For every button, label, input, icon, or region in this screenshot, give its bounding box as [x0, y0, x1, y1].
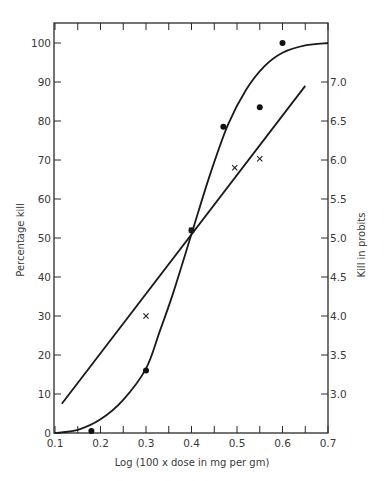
- x-tick-label: 0.6: [274, 437, 291, 449]
- x-tick-label: 0.2: [92, 437, 109, 449]
- y-tick-label: 0: [44, 427, 51, 439]
- linear-fit-line: [62, 86, 305, 404]
- data-point-cross: [232, 165, 237, 170]
- sigmoid-fit-curve: [55, 43, 328, 433]
- y2-axis-ticks: 3.03.54.04.55.05.56.06.57.0: [321, 76, 347, 400]
- y-tick-label: 40: [38, 271, 51, 283]
- x-tick-label: 0.5: [229, 437, 246, 449]
- y2-tick-label: 5.5: [330, 193, 347, 205]
- data-point-cross: [143, 313, 148, 318]
- y2-tick-label: 3.5: [330, 349, 347, 361]
- fit-lines: [55, 43, 328, 433]
- y2-tick-label: 6.0: [330, 154, 347, 166]
- y-axis-title: Percentage kill: [15, 203, 26, 277]
- y2-tick-label: 4.5: [330, 271, 347, 283]
- x-axis-title: Log (100 x dose in mg per gm): [115, 457, 270, 468]
- y-tick-label: 30: [38, 310, 51, 322]
- y2-tick-label: 5.0: [330, 232, 347, 244]
- x-tick-label: 0.4: [183, 437, 200, 449]
- data-point-dot: [143, 368, 149, 374]
- x-tick-label: 0.7: [320, 437, 337, 449]
- y-tick-label: 80: [38, 115, 51, 127]
- y-tick-label: 100: [31, 37, 51, 49]
- data-markers: [88, 40, 285, 434]
- y2-tick-label: 4.0: [330, 310, 347, 322]
- data-point-dot: [280, 40, 286, 46]
- y2-axis-title: Kill in probits: [356, 213, 367, 278]
- data-point-dot: [88, 428, 94, 434]
- y-tick-label: 70: [38, 154, 51, 166]
- y2-tick-label: 6.5: [330, 115, 347, 127]
- y2-tick-label: 7.0: [330, 76, 347, 88]
- data-point-dot: [220, 124, 226, 130]
- y-tick-label: 10: [38, 388, 51, 400]
- data-point-dot: [257, 104, 263, 110]
- y-tick-label: 60: [38, 193, 51, 205]
- y-tick-label: 50: [38, 232, 51, 244]
- y-tick-label: 90: [38, 76, 51, 88]
- x-tick-label: 0.3: [138, 437, 155, 449]
- y-tick-label: 20: [38, 349, 51, 361]
- data-point-cross: [257, 156, 262, 161]
- dose-response-chart: 0.10.20.30.40.50.60.7 010203040506070809…: [0, 0, 386, 481]
- y2-tick-label: 3.0: [330, 388, 347, 400]
- y-axis-ticks: 0102030405060708090100: [31, 37, 61, 439]
